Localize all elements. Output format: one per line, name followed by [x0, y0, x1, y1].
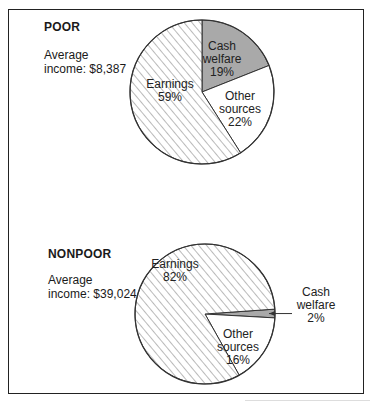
slice-label-line: 19%: [210, 65, 234, 79]
slice-label-line: welfare: [202, 52, 242, 66]
slice-label-line: welfare: [296, 298, 336, 312]
slice-label-line: sources: [219, 102, 261, 116]
slice-label-line: Earnings: [146, 77, 193, 91]
slice-label-line: 16%: [226, 353, 250, 367]
nonpoor-label-cash-welfare: Cashwelfare2%: [296, 285, 336, 325]
slice-label-line: Other: [225, 89, 255, 103]
slice-label-line: Earnings: [151, 257, 198, 271]
scan-edge: [245, 400, 370, 401]
pie-charts: Cashwelfare19%Othersources22%Earnings59%…: [0, 0, 375, 405]
slice-label-line: 22%: [228, 115, 252, 129]
slice-label-line: 2%: [307, 311, 325, 325]
slice-label-line: 82%: [163, 270, 187, 284]
slice-label-line: 59%: [158, 90, 182, 104]
slice-label-line: Other: [223, 327, 253, 341]
slice-label-line: Cash: [302, 285, 330, 299]
slice-label-line: Cash: [208, 39, 236, 53]
slice-label-line: sources: [217, 340, 259, 354]
